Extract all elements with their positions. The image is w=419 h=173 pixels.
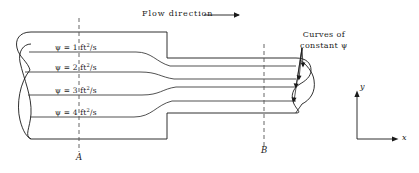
- streamline-label-psi-2-text: ψ = 2 ft: [55, 63, 86, 72]
- streamline-label-psi-4: ψ = 4 ft2/s: [55, 108, 97, 117]
- streamline-label-psi-4-text: ψ = 4 ft: [55, 108, 86, 117]
- x-axis-arrow-icon: [392, 136, 399, 141]
- streamline-label-psi-2: ψ = 2 ft2/s: [55, 63, 97, 72]
- flow-direction-label: Flow direction: [142, 9, 213, 18]
- streamline-label-psi-1-unit: /s: [90, 43, 97, 52]
- x-axis-label: x: [402, 133, 407, 142]
- streamline-label-psi-2-unit: /s: [90, 63, 97, 72]
- streamline-label-psi-3-unit: /s: [90, 86, 97, 95]
- streamline-duct-figure: Flow direction ψ = 1 ft2/s ψ = 2 ft2/s ψ…: [0, 0, 419, 173]
- annotation-line-2: constant ψ: [300, 40, 348, 51]
- streamline-label-psi-4-unit: /s: [90, 108, 97, 117]
- streamline-psi-2: [25, 72, 296, 79]
- y-axis-label: y: [360, 82, 365, 91]
- annotation-leader-arrows: [292, 48, 306, 102]
- annotation-line-1: Curves of: [300, 29, 348, 40]
- left-end-cap: [17, 32, 32, 139]
- left-cap-upper-arc: [17, 32, 31, 70]
- curves-of-constant-psi-annotation: Curves of constant ψ: [300, 29, 348, 51]
- streamline-label-psi-1: ψ = 1 ft2/s: [55, 43, 97, 52]
- section-a-label: A: [76, 152, 82, 162]
- streamline-label-psi-3-text: ψ = 3 ft: [55, 86, 86, 95]
- right-arrow-icon: [234, 12, 240, 18]
- streamline-label-psi-3: ψ = 3 ft2/s: [55, 86, 97, 95]
- right-cap-crossing-arc: [300, 60, 314, 104]
- leader-arrowhead-1: [301, 63, 306, 68]
- section-b-label: B: [261, 145, 267, 155]
- streamline-label-psi-1-text: ψ = 1 ft: [55, 43, 86, 52]
- coordinate-axes: [354, 91, 398, 142]
- y-axis-arrow-icon: [354, 91, 359, 98]
- section-lines: [79, 18, 264, 152]
